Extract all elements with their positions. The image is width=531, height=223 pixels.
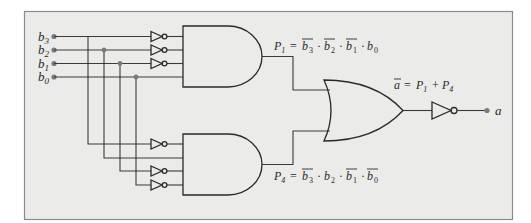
svg-text:·: · <box>361 169 365 183</box>
svg-text:1: 1 <box>353 46 357 55</box>
svg-text:2: 2 <box>331 46 335 55</box>
svg-text:0: 0 <box>374 176 378 185</box>
output-label: a <box>495 103 502 118</box>
svg-text:=: = <box>290 39 297 53</box>
svg-text:b: b <box>346 169 352 183</box>
svg-text:3: 3 <box>309 46 313 55</box>
svg-text:·: · <box>317 169 321 183</box>
junction-b1 <box>118 61 123 66</box>
svg-text:b: b <box>302 39 308 53</box>
svg-text:b: b <box>324 39 330 53</box>
svg-text:b: b <box>367 169 373 183</box>
output-terminal <box>484 108 489 113</box>
svg-text:=: = <box>290 169 297 183</box>
svg-text:1: 1 <box>353 176 357 185</box>
svg-text:2: 2 <box>331 176 335 185</box>
svg-text:0: 0 <box>374 46 378 55</box>
junction-b0 <box>134 75 139 80</box>
svg-text:+: + <box>432 78 439 92</box>
svg-text:·: · <box>361 39 365 53</box>
svg-text:b: b <box>302 169 308 183</box>
svg-text:b: b <box>346 39 352 53</box>
svg-text:·: · <box>339 39 343 53</box>
logic-diagram: b3 b2 b1 b0 <box>0 0 531 223</box>
junction-b2 <box>102 48 107 53</box>
input-labels: b3 b2 b1 b0 <box>38 29 50 86</box>
svg-text:b: b <box>367 39 373 53</box>
svg-text:·: · <box>317 39 321 53</box>
svg-text:3: 3 <box>309 176 313 185</box>
svg-text:·: · <box>339 169 343 183</box>
svg-text:a: a <box>394 78 400 92</box>
svg-text:=: = <box>404 78 411 92</box>
svg-text:b: b <box>324 169 330 183</box>
